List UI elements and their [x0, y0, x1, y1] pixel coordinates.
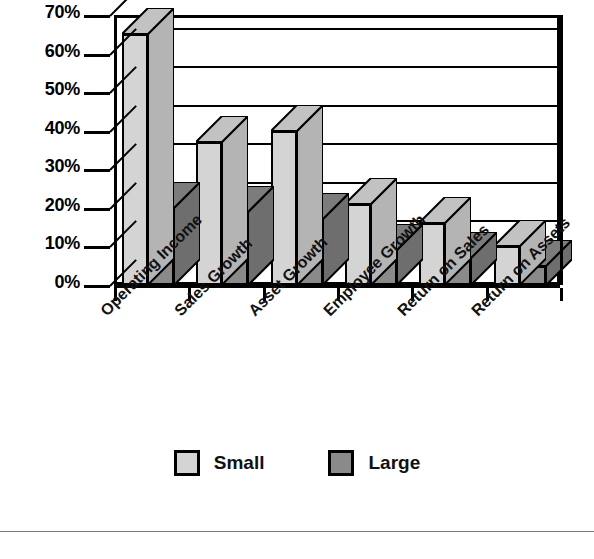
- footer-divider: [0, 531, 594, 532]
- legend-label-large: Large: [368, 452, 420, 474]
- legend-item-small[interactable]: Small: [174, 450, 265, 476]
- y-axis-tick-mark: [84, 54, 110, 57]
- y-axis-tick-mark: [84, 169, 110, 172]
- x-axis-category-label: Asset Growth: [245, 233, 331, 319]
- y-axis-tick-mark: [84, 92, 110, 95]
- chart-legend: Small Large: [0, 440, 594, 486]
- y-axis-tick-mark: [84, 246, 110, 249]
- x-axis-tick-mark: [560, 288, 563, 301]
- chart-page: 0%10%20%30%40%50%60%70% Operating Income…: [0, 0, 594, 559]
- x-axis-category-label: Sales Growth: [171, 235, 256, 320]
- y-axis-tick-mark: [84, 15, 110, 18]
- legend-swatch-large-icon: [328, 450, 354, 476]
- y-axis-tick-mark: [84, 208, 110, 211]
- y-axis-tick-mark: [84, 285, 110, 288]
- x-axis: Operating IncomeSales GrowthAsset Growth…: [0, 0, 594, 430]
- legend-label-small: Small: [214, 452, 265, 474]
- bar-chart: 0%10%20%30%40%50%60%70% Operating Income…: [0, 0, 594, 430]
- legend-item-large[interactable]: Large: [328, 450, 420, 476]
- legend-swatch-small-icon: [174, 450, 200, 476]
- y-axis-tick-mark: [84, 131, 110, 134]
